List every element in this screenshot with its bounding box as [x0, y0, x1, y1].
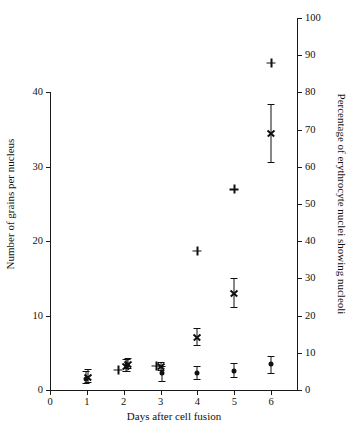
y-axis-left-tick-label: 30 [33, 162, 44, 173]
y-axis-left-line [50, 92, 51, 390]
y-axis-right-tick-label: 10 [305, 348, 316, 359]
x-axis-tick [197, 391, 198, 395]
data-point-plus-marker [267, 58, 276, 67]
y-axis-left-tick [46, 241, 50, 242]
error-bar-cap-top [268, 356, 275, 357]
data-point-cross-marker [193, 333, 202, 342]
y-axis-right-tick-label: 100 [305, 13, 321, 24]
x-axis-tick [50, 391, 51, 395]
error-bar-cap-top [194, 328, 201, 329]
y-axis-right-tick [298, 316, 302, 317]
data-point-circle-marker [195, 370, 200, 375]
y-axis-right-tick-label: 30 [305, 273, 316, 284]
data-point-circle-marker [160, 370, 165, 375]
y-axis-right-tick-label: 90 [305, 50, 316, 61]
y-axis-right-tick [298, 390, 302, 391]
x-axis-tick-label: 6 [269, 397, 274, 408]
data-point-plus-marker [193, 246, 202, 255]
x-axis-tick-label: 1 [84, 397, 89, 408]
y-axis-left-tick [46, 92, 50, 93]
x-axis-tick [234, 391, 235, 395]
y-axis-right-tick [298, 18, 302, 19]
data-point-circle-marker [232, 368, 237, 373]
error-bar-cap-bottom [123, 371, 130, 372]
y-axis-right-tick-label: 70 [305, 124, 316, 135]
y-axis-left-tick-label: 0 [38, 385, 43, 396]
error-bar-cap-top [268, 104, 275, 105]
x-axis-tick [271, 391, 272, 395]
y-axis-right-tick-label: 50 [305, 199, 316, 210]
data-point-cross-marker [267, 129, 276, 138]
error-bar-cap-top [231, 363, 238, 364]
error-bar-cap-top [84, 369, 91, 370]
x-axis-tick-label: 4 [195, 397, 200, 408]
y-axis-right-tick [298, 241, 302, 242]
data-point-plus-marker [152, 361, 161, 370]
x-axis-tick [124, 391, 125, 395]
y-axis-left-tick-label: 20 [33, 236, 44, 247]
y-axis-right-tick [298, 204, 302, 205]
y-axis-left-tick-label: 40 [33, 87, 44, 98]
y-axis-right-tick [298, 55, 302, 56]
x-axis-tick-label: 5 [232, 397, 237, 408]
error-bar-cap-bottom [194, 345, 201, 346]
x-axis-title: Days after cell fusion [127, 410, 221, 422]
x-axis-tick [87, 391, 88, 395]
y-axis-right-tick-label: 80 [305, 87, 316, 98]
data-point-plus-marker [114, 365, 123, 374]
data-point-cross-marker [230, 289, 239, 298]
y-axis-right-tick [298, 167, 302, 168]
y-axis-left-tick-label: 10 [33, 310, 44, 321]
y-axis-left-tick [46, 167, 50, 168]
x-axis-tick-label: 3 [158, 397, 163, 408]
error-bar-cap-bottom [83, 383, 90, 384]
figure-scatter-plot: 010203040 0102030405060708090100 0123456… [0, 0, 347, 428]
error-bar-cap-top [123, 359, 130, 360]
data-point-circle-marker [84, 376, 89, 381]
y-axis-right-tick [298, 353, 302, 354]
error-bar-cap-top [194, 366, 201, 367]
error-bar-cap-bottom [231, 377, 238, 378]
x-axis-tick-label: 2 [121, 397, 126, 408]
y-axis-right-tick [298, 278, 302, 279]
y-axis-right-tick [298, 130, 302, 131]
error-bar-cap-bottom [268, 162, 275, 163]
error-bar-cap-bottom [159, 381, 166, 382]
plot-area: 010203040 0102030405060708090100 0123456… [50, 18, 297, 390]
x-axis-tick [161, 391, 162, 395]
y-axis-right-tick-label: 40 [305, 236, 316, 247]
error-bar-cap-top [83, 371, 90, 372]
error-bar-cap-bottom [231, 307, 238, 308]
data-point-circle-marker [269, 361, 274, 366]
y-axis-left-title: Number of grains per nucleus [4, 139, 16, 270]
y-axis-right-tick-label: 60 [305, 162, 316, 173]
y-axis-right-tick-label: 20 [305, 310, 316, 321]
y-axis-left-tick [46, 316, 50, 317]
error-bar-cap-bottom [268, 373, 275, 374]
data-point-circle-marker [124, 363, 129, 368]
error-bar-cap-bottom [194, 379, 201, 380]
x-axis-tick-label: 0 [47, 397, 52, 408]
y-axis-right-title: Percentage of erythrocyte nuclei showing… [336, 94, 347, 315]
y-axis-right-tick [298, 92, 302, 93]
y-axis-right-tick-label: 0 [305, 385, 310, 396]
error-bar-cap-top [231, 278, 238, 279]
data-point-plus-marker [230, 185, 239, 194]
